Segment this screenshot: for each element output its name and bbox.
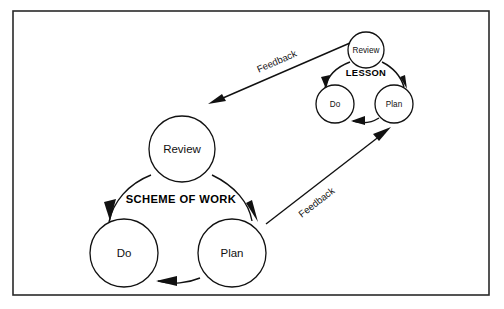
diagram-canvas: Review Do Plan SCHEME OF WORK Review [0,0,504,309]
node-scheme-plan-label: Plan [220,247,243,259]
arrowhead-feedback-upper [208,94,226,104]
planning-cycle-diagram: Review Do Plan SCHEME OF WORK Review [0,0,504,309]
arrowhead-scheme-do-to-review [104,199,116,221]
node-lesson-do-label: Do [330,100,341,109]
arrowhead-scheme-plan-to-do [156,276,177,286]
node-scheme-review-label: Review [163,143,201,155]
feedback-line-lower [266,132,385,224]
node-scheme-do-label: Do [117,247,132,259]
cycle-lesson: Review Do Plan LESSON [316,32,413,125]
cycle-title-scheme-of-work: SCHEME OF WORK [126,193,237,205]
arrowhead-lesson-plan-to-do [351,116,365,125]
cycle-scheme-of-work: Review Do Plan SCHEME OF WORK [90,116,266,287]
feedback-label-lower: Feedback [296,185,336,220]
node-lesson-review-label: Review [353,46,380,55]
node-lesson-plan-label: Plan [386,100,403,109]
feedback-label-upper: Feedback [255,48,298,75]
connector-feedback-scheme-to-lesson: Feedback [266,127,391,224]
cycle-title-lesson: LESSON [346,67,386,78]
